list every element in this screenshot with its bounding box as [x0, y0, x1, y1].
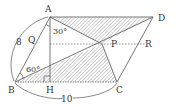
label-a: A	[44, 4, 52, 14]
label-c: C	[116, 85, 123, 95]
label-r: R	[145, 39, 152, 49]
shaded-triangle-bpc	[15, 44, 117, 82]
label-q: Q	[28, 35, 35, 45]
label-b: B	[8, 85, 15, 95]
label-d: D	[158, 13, 165, 23]
angle-arc-a	[46, 24, 50, 26]
label-angle-a: 30°	[53, 27, 67, 36]
label-ab-length: 8	[16, 37, 22, 47]
geometry-diagram: A D B H C P R Q 8 10 30° 60°	[0, 0, 177, 107]
label-bc-length: 10	[61, 94, 73, 104]
label-p: P	[111, 39, 117, 49]
label-h: H	[46, 85, 54, 95]
label-angle-b: 60°	[26, 65, 40, 74]
